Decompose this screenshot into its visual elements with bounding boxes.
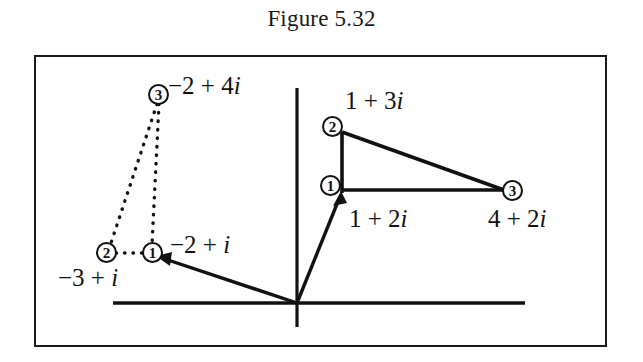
solid-vertex-badge-2: 2 <box>322 116 343 137</box>
label-one-plus-two-i: 1 + 2i <box>349 206 408 231</box>
figure-page: Figure 5.32 2 1 3 3 2 1 −2 + 4i 1 <box>0 0 643 362</box>
solid-vertex-badge-1: 1 <box>320 175 341 196</box>
vector-origin-to-solid-vertex-1 <box>297 199 339 303</box>
vector-origin-to-dotted-vertex-1 <box>165 259 297 303</box>
label-minus-three-plus-i: −3 + i <box>58 265 118 290</box>
label-minus-two-plus-i: −2 + i <box>170 232 230 257</box>
dotted-edge-3-1 <box>152 104 159 244</box>
dotted-vertex-badge-3: 3 <box>148 84 169 105</box>
solid-vertex-badge-3: 3 <box>502 180 523 201</box>
dotted-vertex-badge-1: 1 <box>142 242 163 263</box>
dotted-vertex-badge-2: 2 <box>96 242 117 263</box>
label-four-plus-two-i: 4 + 2i <box>488 206 547 231</box>
label-minus-two-plus-four-i: −2 + 4i <box>168 73 241 98</box>
dotted-edge-3-2 <box>110 104 157 246</box>
solid-edge-2-3 <box>342 132 504 190</box>
label-one-plus-three-i: 1 + 3i <box>345 88 404 113</box>
